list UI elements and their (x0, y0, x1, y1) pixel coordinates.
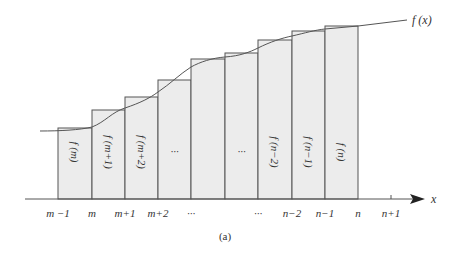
tick-label: m+2 (148, 207, 169, 219)
tick-label: m −1 (46, 207, 70, 219)
tick-labels-group: m −1mm+1m+2······n−2n−1nn+1 (46, 207, 400, 219)
bar-label: f (n−2) (268, 136, 281, 168)
bar-label: ··· (170, 145, 179, 157)
bars-group: f (m)f (m+1)f (m+2)······f (n−2)f (n−1)f… (58, 26, 358, 199)
bar-label: f (n) (335, 143, 348, 162)
tick-label: m (88, 207, 96, 219)
bar-label: f (m+2) (135, 135, 148, 169)
figure-caption: (a) (219, 230, 232, 243)
bar (325, 26, 358, 199)
tick-label: n (355, 207, 361, 219)
bar (258, 40, 292, 199)
bar (225, 53, 258, 199)
curve-label: f (x) (412, 13, 432, 27)
bar-label: f (m+1) (102, 135, 115, 169)
tick-label: n−1 (316, 207, 334, 219)
tick-label: n+1 (382, 207, 400, 219)
tick-label: ··· (254, 207, 263, 219)
bar-label: ··· (237, 145, 246, 157)
x-axis-label: x (430, 192, 437, 206)
bar-label: f (n−1) (302, 136, 315, 168)
tick-label: n−2 (283, 207, 302, 219)
bar (191, 59, 225, 199)
bar-label: f (m) (68, 141, 81, 162)
tick-label: m+1 (115, 207, 136, 219)
bar (158, 80, 191, 199)
riemann-sum-diagram: f (m)f (m+1)f (m+2)······f (n−2)f (n−1)f… (0, 0, 457, 255)
bar (58, 128, 92, 199)
tick-label: ··· (187, 207, 196, 219)
bar (292, 31, 325, 199)
